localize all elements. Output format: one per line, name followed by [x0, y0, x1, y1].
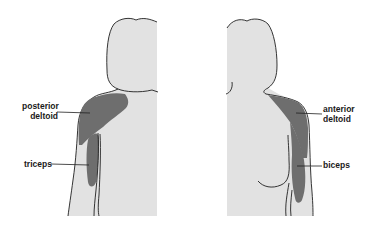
label-anterior-deltoid: anterior deltoid [323, 104, 355, 124]
label-triceps-text: triceps [24, 159, 52, 169]
label-posterior-deltoid-line1: posterior [22, 101, 58, 111]
label-posterior-deltoid: posterior deltoid [22, 101, 58, 121]
anterior-figure [226, 19, 322, 216]
label-posterior-deltoid-line2: deltoid [22, 111, 58, 121]
label-biceps-text: biceps [323, 160, 350, 170]
label-triceps: triceps [24, 159, 52, 169]
label-anterior-deltoid-line1: anterior [323, 104, 355, 114]
label-biceps: biceps [323, 160, 350, 170]
label-anterior-deltoid-line2: deltoid [323, 114, 355, 124]
posterior-figure [51, 18, 158, 216]
